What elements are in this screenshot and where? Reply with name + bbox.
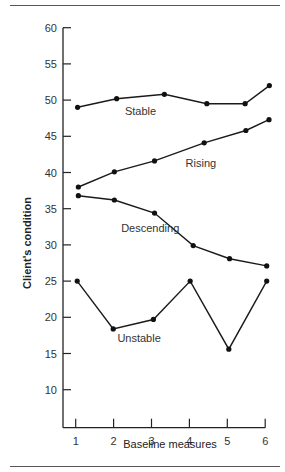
data-point: [202, 140, 207, 145]
x-tick-label: 6: [262, 435, 268, 447]
series-rising: Rising: [76, 117, 272, 190]
x-tick-label: 5: [224, 435, 230, 447]
series-label: Rising: [186, 157, 217, 169]
data-point: [112, 197, 117, 202]
data-point: [243, 101, 248, 106]
series-unstable: Unstable: [75, 279, 270, 352]
series-label: Descending: [121, 222, 179, 234]
data-point: [204, 101, 209, 106]
y-axis-title: Client's condition: [21, 197, 33, 289]
y-tick-label: 50: [45, 94, 57, 106]
baseline-patterns-chart: 1015202530354045505560123456 StableRisin…: [0, 0, 285, 472]
data-point: [75, 105, 80, 110]
series-line: [77, 281, 267, 349]
y-tick-label: 35: [45, 203, 57, 215]
y-tick-label: 10: [45, 384, 57, 396]
series-label: Stable: [125, 105, 156, 117]
data-point: [191, 243, 196, 248]
y-tick-label: 45: [45, 130, 57, 142]
data-point: [243, 128, 248, 133]
data-point: [111, 326, 116, 331]
data-point: [264, 263, 269, 268]
data-point: [162, 92, 167, 97]
y-tick-label: 15: [45, 348, 57, 360]
data-point: [188, 279, 193, 284]
y-tick-label: 55: [45, 58, 57, 70]
data-point: [227, 256, 232, 261]
data-point: [75, 279, 80, 284]
y-tick-label: 25: [45, 275, 57, 287]
y-tick-label: 20: [45, 311, 57, 323]
data-point: [264, 279, 269, 284]
series-line: [78, 120, 269, 187]
y-tick-label: 40: [45, 167, 57, 179]
y-tick-label: 30: [45, 239, 57, 251]
x-axis-title: Baseline measures: [123, 438, 217, 450]
data-point: [114, 96, 119, 101]
data-point: [152, 210, 157, 215]
data-point: [76, 184, 81, 189]
series-stable: Stable: [75, 83, 272, 117]
data-point: [151, 317, 156, 322]
data-point: [152, 158, 157, 163]
data-point: [112, 169, 117, 174]
data-point: [266, 117, 271, 122]
y-tick-label: 60: [45, 22, 57, 34]
series-layer: StableRisingDescendingUnstable: [75, 83, 272, 352]
x-tick-label: 1: [73, 435, 79, 447]
axes: 1015202530354045505560123456: [45, 22, 269, 447]
data-point: [76, 193, 81, 198]
x-tick-label: 2: [111, 435, 117, 447]
series-line: [78, 86, 270, 108]
data-point: [267, 83, 272, 88]
series-descending: Descending: [76, 193, 270, 268]
data-point: [226, 347, 231, 352]
series-label: Unstable: [117, 332, 160, 344]
